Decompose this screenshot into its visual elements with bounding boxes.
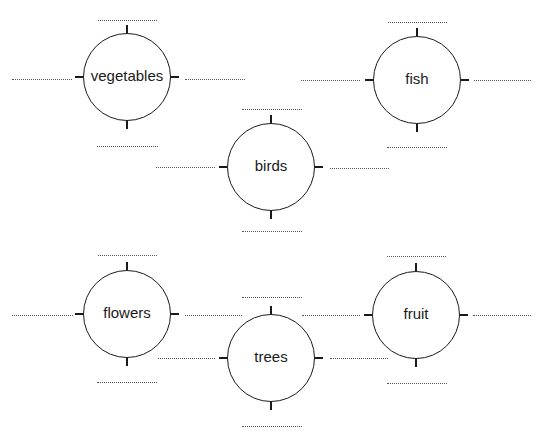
tick-left [219, 357, 227, 359]
answer-blank-right[interactable] [473, 315, 531, 316]
answer-blank-right[interactable] [474, 80, 531, 81]
category-label: fruit [403, 306, 428, 321]
answer-blank-left[interactable] [12, 315, 73, 316]
tick-right [315, 357, 323, 359]
category-circle-fruit: fruit [372, 271, 460, 359]
tick-top [126, 262, 128, 270]
category-circle-vegetables: vegetables [83, 33, 171, 121]
tick-top [416, 28, 418, 36]
tick-top [126, 25, 128, 33]
tick-bottom [126, 121, 128, 129]
answer-blank-right[interactable] [330, 168, 389, 169]
tick-top [270, 306, 272, 314]
category-label: vegetables [91, 68, 164, 83]
answer-blank-bottom[interactable] [97, 146, 158, 147]
answer-blank-left[interactable] [302, 315, 360, 316]
tick-left [365, 79, 373, 81]
answer-blank-bottom[interactable] [97, 382, 157, 383]
answer-blank-right[interactable] [185, 315, 242, 316]
category-circle-flowers: flowers [83, 270, 171, 358]
answer-blank-left[interactable] [12, 79, 72, 80]
tick-left [75, 76, 83, 78]
answer-blank-top[interactable] [242, 297, 302, 298]
category-label: flowers [103, 305, 151, 320]
category-circle-birds: birds [227, 123, 315, 211]
answer-blank-left[interactable] [301, 80, 360, 81]
answer-blank-top[interactable] [98, 255, 157, 256]
answer-blank-top[interactable] [98, 20, 157, 21]
category-label: trees [254, 349, 287, 364]
tick-right [315, 166, 323, 168]
tick-left [75, 313, 83, 315]
tick-left [219, 166, 227, 168]
tick-bottom [126, 358, 128, 366]
tick-right [461, 79, 469, 81]
answer-blank-top[interactable] [387, 256, 446, 257]
tick-right [171, 313, 179, 315]
tick-bottom [270, 211, 272, 219]
category-label: fish [405, 71, 428, 86]
answer-blank-right[interactable] [330, 358, 388, 359]
tick-right [460, 314, 468, 316]
answer-blank-left[interactable] [156, 167, 215, 168]
answer-blank-bottom[interactable] [242, 426, 302, 427]
tick-bottom [416, 124, 418, 132]
answer-blank-bottom[interactable] [387, 147, 447, 148]
tick-bottom [270, 402, 272, 410]
category-circle-trees: trees [227, 314, 315, 402]
word-web-diagram: vegetables fish birds [0, 0, 558, 444]
tick-right [171, 76, 179, 78]
answer-blank-bottom[interactable] [242, 231, 302, 232]
category-label: birds [255, 158, 288, 173]
answer-blank-top[interactable] [388, 22, 447, 23]
tick-top [415, 263, 417, 271]
tick-bottom [415, 359, 417, 367]
answer-blank-right[interactable] [185, 79, 245, 80]
answer-blank-left[interactable] [158, 358, 215, 359]
answer-blank-bottom[interactable] [387, 383, 447, 384]
answer-blank-top[interactable] [242, 109, 302, 110]
tick-top [270, 115, 272, 123]
tick-left [364, 314, 372, 316]
category-circle-fish: fish [373, 36, 461, 124]
